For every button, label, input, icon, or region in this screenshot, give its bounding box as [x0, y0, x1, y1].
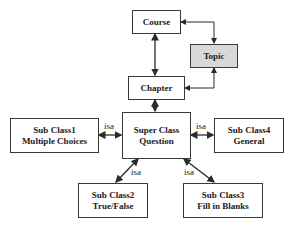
node-subclass3: Sub Class3 Fill in Blanks — [183, 183, 263, 218]
sub4-line2: General — [234, 136, 265, 147]
topic-label: Topic — [203, 51, 224, 62]
node-superclass-question: Super Class Question — [122, 112, 191, 159]
chapter-label: Chapter — [141, 83, 173, 94]
sub2-line1: Sub Class2 — [92, 190, 134, 201]
sub1-line2: Multiple Choices — [22, 136, 87, 147]
node-subclass1: Sub Class1 Multiple Choices — [10, 118, 99, 153]
course-label: Course — [143, 17, 171, 28]
edge-label-sub4: isa — [196, 121, 206, 131]
node-subclass4: Sub Class4 General — [214, 118, 284, 153]
sub4-line1: Sub Class4 — [228, 125, 270, 136]
edge-course-topic — [181, 22, 214, 43]
node-chapter: Chapter — [128, 76, 185, 100]
node-topic: Topic — [190, 44, 238, 68]
edge-label-sub3: isa — [184, 167, 194, 177]
edge-label-sub1: isa — [104, 121, 114, 131]
question-line1: Super Class — [134, 125, 180, 136]
sub1-line1: Sub Class1 — [33, 125, 75, 136]
sub2-line2: True/False — [93, 201, 134, 212]
question-line2: Question — [139, 136, 174, 147]
edge-topic-chapter — [185, 68, 214, 88]
sub3-line1: Sub Class3 — [202, 190, 244, 201]
node-course: Course — [132, 10, 181, 34]
sub3-line2: Fill in Blanks — [197, 201, 249, 212]
edge-label-sub2: isa — [131, 167, 141, 177]
node-subclass2: Sub Class2 True/False — [78, 183, 148, 218]
